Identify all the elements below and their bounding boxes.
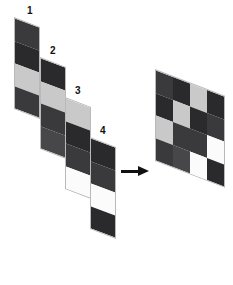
layer-panel-4-label: 4 [100,126,106,136]
composite-column-2 [173,77,190,174]
layer-panel-1 [14,17,40,119]
arrow-head [138,166,149,176]
layer-panel-4 [90,137,116,239]
layer-panel-2-label: 2 [50,46,56,56]
layer-panel-3-label: 3 [75,86,81,96]
composite-column-1 [156,70,173,167]
diagram-canvas: 1234 [0,0,233,285]
layer-panel-2 [40,57,66,159]
layer-panel-3 [65,97,91,199]
composite-column-4 [207,90,224,187]
right-arrow-icon [121,166,149,177]
layer-panel-1-label: 1 [27,6,33,16]
composite-column-3 [190,83,207,180]
composite-grid [155,69,225,188]
